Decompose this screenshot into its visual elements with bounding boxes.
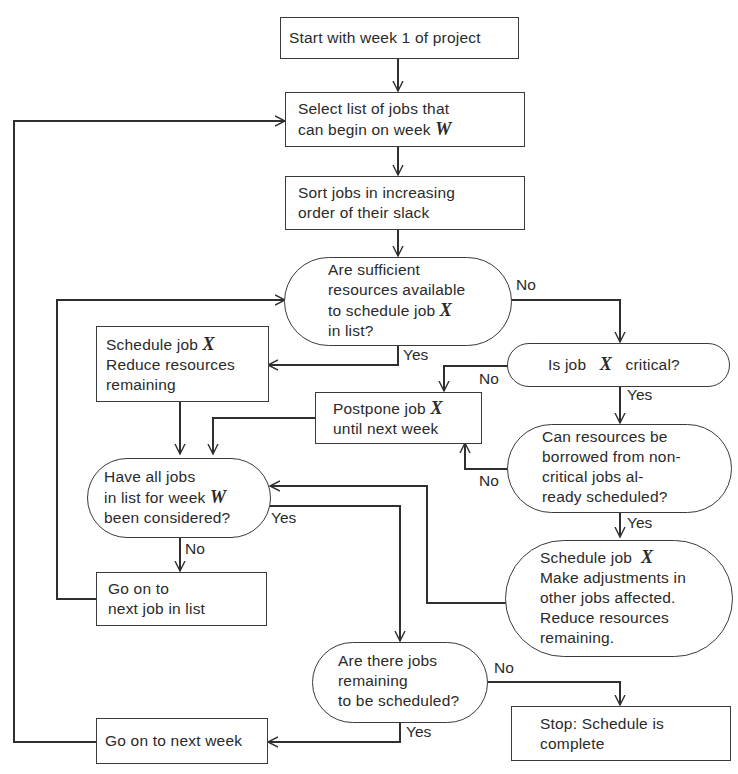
label-borrow-no: No	[479, 472, 499, 490]
edge-nextweek-select	[14, 121, 285, 742]
node-nextweek-text: Go on to next week	[105, 731, 267, 751]
variable-w: W	[435, 119, 451, 139]
node-postpone-line-1: Postpone job	[333, 400, 426, 417]
node-next-job: Go on to next job in list	[96, 572, 267, 626]
variable-x: X	[440, 300, 452, 320]
decision-sufficient-line-1: Are sufficient	[328, 260, 511, 280]
node-start: Start with week 1 of project	[280, 17, 519, 59]
node-stop: Stop: Schedule is complete	[511, 706, 731, 761]
decision-job-critical: Is job X critical?	[507, 343, 730, 387]
node-nextjob-line-1: Go on to	[108, 579, 266, 599]
node-start-text: Start with week 1 of project	[289, 28, 518, 48]
edge-adjust-allconsidered	[270, 486, 506, 603]
label-sufficient-yes: Yes	[403, 346, 428, 364]
node-adjust-line-5: remaining.	[540, 628, 732, 648]
decision-remaining-line-1: Are there jobs	[338, 651, 487, 671]
decision-sufficient-line-2: resources available	[328, 280, 511, 300]
decision-borrow-line-1: Can resources be	[542, 427, 731, 447]
node-sort-jobs: Sort jobs in increasing order of their s…	[285, 176, 525, 230]
decision-borrow-line-2: borrowed from non-	[542, 447, 731, 467]
flowchart-canvas: Start with week 1 of project Select list…	[0, 0, 738, 774]
node-adjust-line-2: Make adjustments in	[540, 568, 732, 588]
decision-remaining-line-2: remaining	[338, 671, 487, 691]
node-postpone-job: Postpone job X until next week	[315, 392, 482, 444]
node-select-line-1: Select list of jobs that	[298, 99, 524, 119]
node-adjust-line-4: Reduce resources	[540, 608, 732, 628]
node-sort-line-2: order of their slack	[298, 203, 524, 223]
variable-x: X	[203, 334, 215, 354]
decision-critical-pre: Is job	[548, 356, 586, 373]
edge-remaining-nextweek	[268, 722, 400, 742]
node-select-line-2: can begin on week	[298, 121, 431, 138]
decision-borrow-line-3: critical jobs al-	[542, 467, 731, 487]
node-schedule-line-3: remaining	[106, 375, 268, 395]
decision-critical-post: critical?	[626, 356, 680, 373]
variable-w: W	[210, 487, 226, 507]
node-schedule-job: Schedule job X Reduce resources remainin…	[96, 326, 269, 402]
label-allconsidered-no: No	[185, 540, 205, 558]
variable-x: X	[600, 354, 612, 374]
decision-sufficient-resources: Are sufficient resources available to sc…	[284, 257, 512, 346]
node-nextjob-line-2: next job in list	[108, 599, 266, 619]
node-adjust-line-3: other jobs affected.	[540, 588, 732, 608]
edge-remaining-stop	[487, 682, 620, 705]
edge-sufficient-critical	[511, 300, 620, 342]
decision-all-considered: Have all jobs in list for week W been co…	[87, 458, 271, 538]
decision-jobs-remaining: Are there jobs remaining to be scheduled…	[312, 642, 488, 723]
decision-remaining-line-3: to be scheduled?	[338, 691, 487, 711]
node-schedule-line-1: Schedule job	[106, 336, 198, 353]
variable-x: X	[641, 547, 653, 567]
decision-allconsidered-line-2: in list for week	[104, 489, 205, 506]
decision-borrow-line-4: ready scheduled?	[542, 487, 731, 507]
label-critical-yes: Yes	[627, 386, 652, 404]
node-adjust-line-1: Schedule job	[540, 549, 632, 566]
node-stop-line-2: complete	[540, 734, 730, 754]
decision-borrow-resources: Can resources be borrowed from non- crit…	[507, 424, 732, 513]
edge-sufficient-schedule	[268, 345, 398, 365]
label-remaining-yes: Yes	[406, 723, 431, 741]
variable-x: X	[430, 398, 442, 418]
node-select-jobs: Select list of jobs that can begin on we…	[285, 92, 525, 147]
label-borrow-yes: Yes	[627, 514, 652, 532]
decision-allconsidered-line-3: been considered?	[104, 508, 270, 528]
label-sufficient-no: No	[516, 276, 536, 294]
node-postpone-line-2: until next week	[333, 419, 481, 439]
node-stop-line-1: Stop: Schedule is	[540, 714, 730, 734]
node-next-week: Go on to next week	[96, 718, 268, 764]
label-critical-no: No	[479, 370, 499, 388]
label-remaining-no: No	[494, 659, 514, 677]
decision-schedule-adjust: Schedule job X Make adjustments in other…	[505, 540, 733, 657]
node-sort-line-1: Sort jobs in increasing	[298, 183, 524, 203]
node-schedule-line-2: Reduce resources	[106, 355, 268, 375]
decision-allconsidered-line-1: Have all jobs	[104, 467, 270, 487]
decision-sufficient-line-4: in list?	[328, 321, 511, 341]
decision-sufficient-line-3: to schedule job	[328, 302, 435, 319]
edge-borrow-postpone	[465, 443, 508, 469]
edge-postpone-allconsidered	[213, 418, 316, 454]
label-allconsidered-yes: Yes	[271, 509, 296, 527]
